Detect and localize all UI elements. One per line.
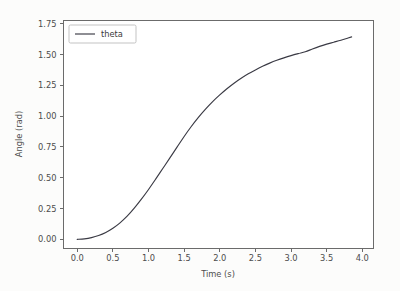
y-tick-label: 1.75 xyxy=(38,19,56,29)
y-tick-label: 0.25 xyxy=(38,204,56,214)
x-tick-label: 0.0 xyxy=(71,253,84,263)
x-tick-label: 2.5 xyxy=(249,253,262,263)
x-tick-label: 2.0 xyxy=(213,253,226,263)
y-tick-label: 0.00 xyxy=(38,234,56,244)
x-axis-ticks: 0.00.51.01.52.02.53.03.54.0 xyxy=(71,248,369,263)
x-tick-label: 1.5 xyxy=(178,253,191,263)
y-tick-label: 1.50 xyxy=(38,50,56,60)
y-tick-label: 1.00 xyxy=(38,111,56,121)
y-axis-ticks: 0.000.250.500.751.001.251.501.75 xyxy=(38,19,63,245)
x-tick-label: 3.5 xyxy=(320,253,333,263)
chart-legend[interactable]: theta xyxy=(69,25,136,43)
line-chart: 0.00.51.01.52.02.53.03.54.0 0.000.250.50… xyxy=(0,0,400,291)
y-tick-label: 1.25 xyxy=(38,80,56,90)
y-tick-label: 0.50 xyxy=(38,173,56,183)
x-tick-label: 4.0 xyxy=(356,253,369,263)
x-axis-label: Time (s) xyxy=(200,269,235,279)
x-tick-label: 1.0 xyxy=(142,253,155,263)
plot-area-background xyxy=(63,20,373,248)
y-axis-label: Angle (rad) xyxy=(14,111,24,157)
chart-figure: 0.00.51.01.52.02.53.03.54.0 0.000.250.50… xyxy=(0,0,400,291)
y-tick-label: 0.75 xyxy=(38,142,56,152)
x-tick-label: 0.5 xyxy=(106,253,119,263)
x-tick-label: 3.0 xyxy=(284,253,297,263)
legend-label-theta: theta xyxy=(101,29,123,39)
